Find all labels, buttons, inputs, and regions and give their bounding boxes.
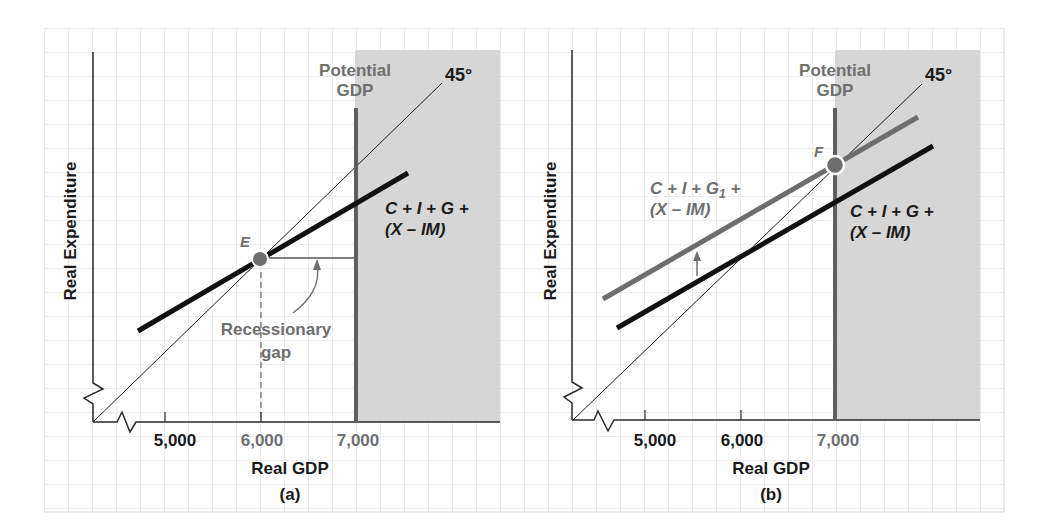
new-curve-label-main: C + I + G [650, 179, 719, 198]
panel-caption-b: (b) [760, 485, 782, 504]
point-label-f: F [814, 143, 824, 160]
potential-gdp-label-line2: GDP [817, 81, 854, 100]
new-curve-label-line1: C + I + G1 + [650, 179, 740, 201]
figure: E Potential GDP 45° C + I + G + (X – IM)… [0, 0, 1042, 532]
x-tick-label-7000: 7,000 [337, 431, 380, 450]
x-tick-label-6000: 6,000 [241, 431, 284, 450]
curve-label-line2: (X – IM) [385, 220, 446, 239]
recessionary-gap-label-line1: Recessionary [221, 320, 332, 339]
potential-gdp-label-line1: Potential [799, 61, 871, 80]
potential-gdp-label-line1: Potential [319, 61, 391, 80]
x-axis-label: Real GDP [251, 459, 328, 478]
panel-caption-a: (a) [280, 485, 301, 504]
full-employment-point-f [826, 156, 844, 174]
new-curve-label-line2: (X – IM) [650, 200, 711, 219]
x-tick-label-7000: 7,000 [817, 431, 860, 450]
x-axis-label: Real GDP [732, 459, 809, 478]
curve-label-line1: C + I + G + [850, 202, 934, 221]
label-45-degree: 45° [445, 65, 472, 85]
new-curve-label-plus: + [726, 179, 741, 198]
equilibrium-point-e [252, 251, 268, 267]
curve-label-line2: (X – IM) [850, 223, 911, 242]
potential-gdp-label-line2: GDP [337, 81, 374, 100]
curve-label-line1: C + I + G + [385, 199, 469, 218]
x-tick-label-6000: 6,000 [721, 431, 764, 450]
label-45-degree: 45° [925, 65, 952, 85]
chart-canvas: E Potential GDP 45° C + I + G + (X – IM)… [0, 0, 1042, 532]
point-label-e: E [240, 233, 251, 250]
y-axis-label: Real Expenditure [61, 162, 80, 301]
x-tick-label-5000: 5,000 [154, 431, 197, 450]
recessionary-gap-label-line2: gap [261, 343, 291, 362]
x-tick-label-5000: 5,000 [634, 431, 677, 450]
y-axis-label: Real Expenditure [541, 162, 560, 301]
